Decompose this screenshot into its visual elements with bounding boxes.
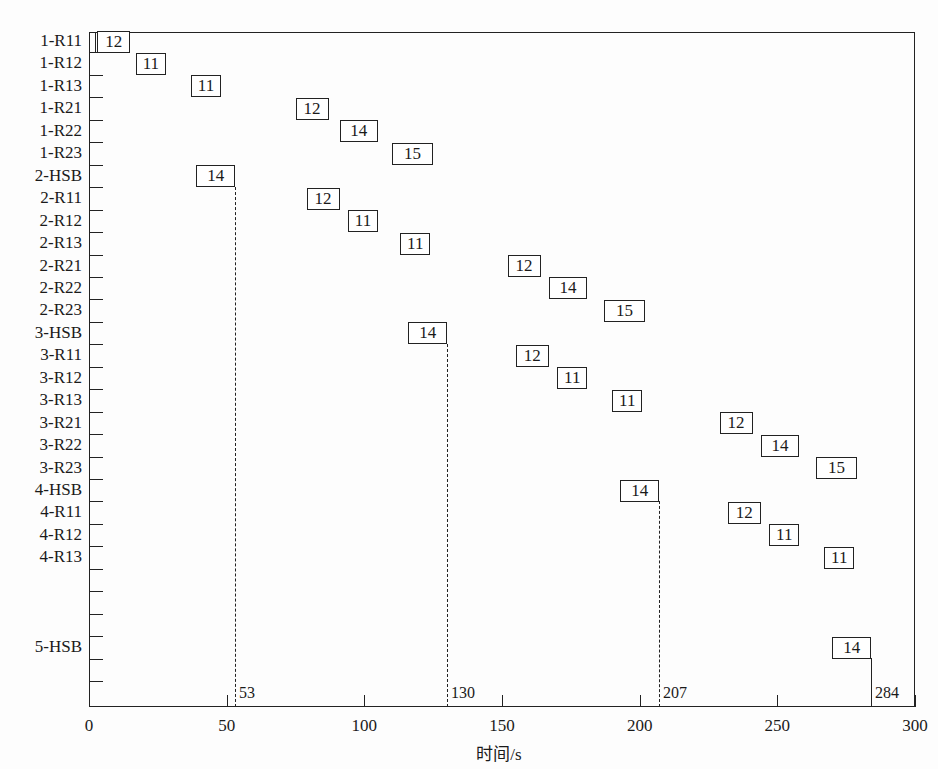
task-box: 14 — [408, 322, 447, 344]
y-axis-tick — [89, 210, 103, 211]
y-axis-tick — [89, 434, 103, 435]
y-axis-tick — [89, 277, 103, 278]
y-axis-tick — [89, 569, 103, 570]
x-axis-tick — [227, 695, 228, 707]
y-axis-label: 2-R12 — [40, 212, 83, 230]
task-box: 15 — [392, 143, 433, 165]
y-axis-tick — [89, 75, 103, 76]
y-axis-label: 1-R21 — [40, 99, 83, 117]
y-axis-label: 2-R11 — [40, 189, 82, 207]
task-box: 11 — [136, 53, 166, 75]
y-axis-tick — [89, 501, 103, 502]
gantt-chart: 1-R111-R121-R131-R211-R221-R232-HSB2-R11… — [0, 0, 938, 769]
y-axis-label: 3-R23 — [40, 459, 83, 477]
y-axis-label: 1-R12 — [40, 54, 83, 72]
y-axis-label: 2-R21 — [40, 257, 83, 275]
task-box: 12 — [307, 188, 340, 210]
milestone-label: 207 — [663, 684, 687, 702]
x-axis-label: 250 — [765, 716, 791, 736]
task-box: 14 — [832, 637, 871, 659]
y-axis-label: 3-R12 — [40, 369, 83, 387]
y-axis-label: 1-R11 — [40, 32, 82, 50]
x-axis-tick — [89, 695, 90, 707]
y-axis-tick — [89, 165, 103, 166]
y-axis-label: 3-HSB — [35, 324, 82, 342]
y-axis-label: 3-R22 — [40, 436, 83, 454]
y-axis-label: 3-R11 — [40, 346, 82, 364]
task-box: 14 — [620, 480, 659, 502]
task-box: 11 — [557, 367, 587, 389]
task-box: 12 — [728, 502, 761, 524]
y-axis-tick — [89, 591, 103, 592]
task-box: 12 — [720, 412, 753, 434]
task-box: 15 — [604, 300, 645, 322]
y-axis-tick — [89, 142, 103, 143]
y-axis-tick — [89, 255, 103, 256]
task-box: 14 — [196, 165, 235, 187]
task-box: 11 — [348, 210, 378, 232]
task-box: 14 — [340, 120, 379, 142]
y-axis-label: 1-R23 — [40, 144, 83, 162]
task-box: 12 — [508, 255, 541, 277]
task-box: 12 — [296, 98, 329, 120]
y-axis-label: 4-R11 — [40, 503, 82, 521]
milestone-dashed-line — [235, 187, 236, 707]
y-axis-label: 2-R23 — [40, 301, 83, 319]
y-axis-tick — [89, 659, 103, 660]
y-axis-tick — [89, 52, 103, 53]
y-axis-tick — [89, 546, 103, 547]
task-box: 14 — [761, 435, 800, 457]
y-axis-tick — [89, 524, 103, 525]
y-axis-tick — [89, 367, 103, 368]
milestone-dashed-line — [447, 344, 448, 707]
y-axis-tick — [89, 479, 103, 480]
y-axis-label: 3-R13 — [40, 391, 83, 409]
y-axis-label: 1-R13 — [40, 77, 83, 95]
x-axis-tick — [915, 695, 916, 707]
y-axis-label: 5-HSB — [35, 638, 82, 656]
y-axis-tick — [89, 299, 103, 300]
task-box: 14 — [549, 277, 588, 299]
y-axis-tick — [89, 344, 103, 345]
x-axis-tick — [640, 695, 641, 707]
y-axis-tick — [89, 457, 103, 458]
task-box: 11 — [400, 233, 430, 255]
y-axis-tick — [89, 322, 103, 323]
task-box: 12 — [97, 31, 130, 53]
x-axis-tick — [502, 695, 503, 707]
y-axis-label: 4-R12 — [40, 526, 83, 544]
y-axis-label: 4-R13 — [40, 548, 83, 566]
y-axis-tick — [89, 97, 103, 98]
x-axis-label: 0 — [85, 716, 94, 736]
x-axis-title: 时间/s — [476, 740, 521, 765]
x-axis-label: 150 — [489, 716, 515, 736]
y-axis-tick — [89, 232, 103, 233]
plot-area — [89, 32, 915, 707]
milestone-dashed-line — [871, 658, 872, 707]
y-axis-label: 2-R22 — [40, 279, 83, 297]
y-axis-label: 1-R22 — [40, 122, 83, 140]
milestone-label: 284 — [875, 684, 899, 702]
y-axis-tick — [89, 120, 103, 121]
x-axis-label: 200 — [627, 716, 653, 736]
y-axis-tick — [89, 614, 103, 615]
milestone-label: 53 — [239, 684, 255, 702]
y-axis-tick — [89, 681, 103, 682]
milestone-label: 130 — [451, 684, 475, 702]
y-axis-tick — [89, 187, 103, 188]
task-box: 11 — [824, 547, 854, 569]
x-axis-label: 50 — [218, 716, 235, 736]
task-box: 15 — [816, 457, 857, 479]
task-box: 11 — [612, 390, 642, 412]
y-axis-label: 2-HSB — [35, 167, 82, 185]
y-axis-tick — [89, 636, 103, 637]
x-axis-tick — [777, 695, 778, 707]
task-box: 11 — [191, 75, 221, 97]
milestone-dashed-line — [659, 501, 660, 707]
y-axis-tick — [89, 389, 103, 390]
y-axis-label: 4-HSB — [35, 481, 82, 499]
y-axis-tick — [89, 412, 103, 413]
x-axis-label: 100 — [352, 716, 378, 736]
start-marker — [95, 32, 96, 52]
task-box: 12 — [516, 345, 549, 367]
